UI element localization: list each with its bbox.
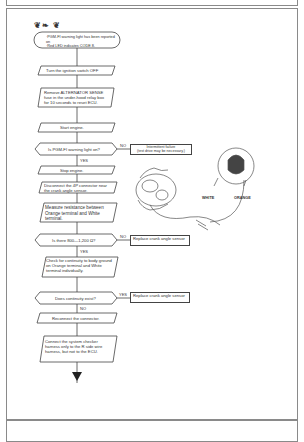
decision-warning-light-on: Is PGM-FI warning light on? [48, 147, 114, 152]
decision-1-no-label: NO [120, 143, 126, 148]
decision-continuity-exists: Does continuity exist? [55, 296, 111, 301]
decision-1-yes-label: YES [80, 158, 88, 163]
step-check-continuity: Check for continuity to body ground on O… [46, 258, 114, 273]
decision-2-yes-label: YES [80, 249, 88, 254]
decision-resistance-range: Is there 800—1,200 Ω? [52, 238, 112, 243]
illustration-label-orange: ORANGE [234, 196, 251, 200]
result-replace-sensor-2: Replace crank angle sensor [130, 292, 190, 303]
start-terminator: ·PGM-FI warning light has been reported … [46, 35, 116, 49]
step-start-engine: Start engine. [60, 125, 110, 130]
step-stop-engine: Stop engine. [60, 168, 110, 173]
crank-angle-sensor-illustration [136, 148, 254, 230]
result-intermittent-failure: Intermittent failure (test drive may be … [130, 144, 192, 155]
step-disconnect-4p-connector: Disconnect the 4P connector near the cra… [44, 183, 112, 193]
step-reconnect-connector: Reconnect the connector. [52, 316, 112, 321]
step-turn-ignition-off: Turn the ignition switch OFF [46, 68, 112, 73]
decision-3-yes-label: YES [119, 292, 127, 297]
result-replace-sensor-1: Replace crank angle sensor [130, 235, 190, 246]
illustration-label-white: WHITE [202, 196, 214, 200]
step-measure-resistance: Measure resistance between Orange termin… [45, 205, 113, 222]
step-connect-system-checker: Connect the system checker harness only … [45, 339, 113, 354]
step-remove-alternator-fuse: Remove ALTERNATOR SENSE fuse in the unde… [44, 90, 110, 105]
decision-3-no-label: NO [80, 306, 86, 311]
decision-2-no-label: NO [120, 234, 126, 239]
